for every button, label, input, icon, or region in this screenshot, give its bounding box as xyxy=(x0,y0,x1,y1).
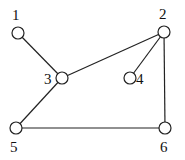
node-5 xyxy=(10,122,22,134)
node-label-1: 1 xyxy=(12,7,20,23)
node-label-6: 6 xyxy=(160,139,168,155)
node-label-5: 5 xyxy=(10,139,18,155)
node-label-3: 3 xyxy=(44,71,52,87)
node-6 xyxy=(159,122,171,134)
edge-3-2 xyxy=(62,32,164,78)
edge-3-5 xyxy=(16,78,62,128)
node-4 xyxy=(124,72,136,84)
node-2 xyxy=(158,26,170,38)
graph-diagram: 123456 xyxy=(0,0,185,160)
edge-2-6 xyxy=(164,32,165,128)
nodes-group: 123456 xyxy=(10,6,171,155)
node-3 xyxy=(56,72,68,84)
node-label-2: 2 xyxy=(159,6,167,22)
edge-1-3 xyxy=(18,33,62,78)
node-label-4: 4 xyxy=(136,71,144,87)
node-1 xyxy=(12,27,24,39)
